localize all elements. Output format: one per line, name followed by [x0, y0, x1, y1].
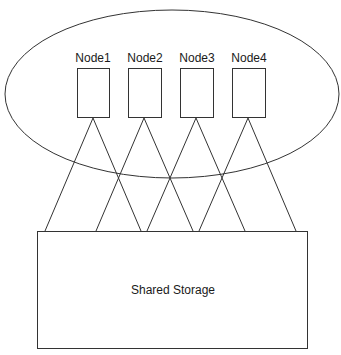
connection-lines — [45, 118, 296, 231]
connection-line — [147, 118, 196, 231]
connection-line — [45, 118, 93, 231]
node-label-1: Node1 — [75, 51, 111, 65]
connection-line — [199, 118, 248, 231]
node-label-2: Node2 — [127, 51, 163, 65]
cluster-diagram: Node1 Node2 Node3 Node4 Shared Storage — [0, 0, 341, 355]
node-label-3: Node3 — [179, 51, 215, 65]
connection-line — [93, 118, 141, 231]
connection-line — [248, 118, 296, 231]
node-box-1 — [78, 69, 110, 118]
node-label-4: Node4 — [231, 51, 267, 65]
node-box-3 — [181, 69, 214, 118]
node-box-4 — [233, 69, 266, 118]
cluster-boundary — [5, 10, 339, 178]
node-box-2 — [129, 69, 162, 118]
connection-line — [196, 118, 245, 231]
connection-line — [144, 118, 193, 231]
connection-line — [96, 118, 144, 231]
shared-storage-label: Shared Storage — [131, 283, 215, 297]
